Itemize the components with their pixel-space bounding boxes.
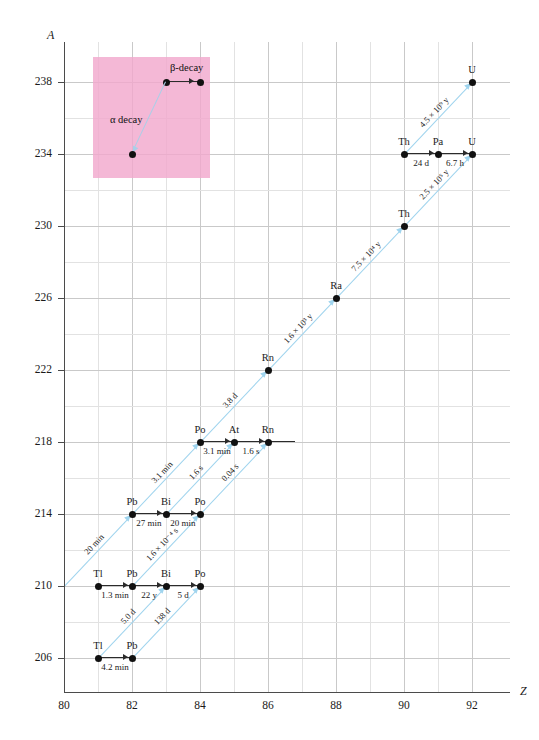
y-axis-tick (58, 154, 64, 155)
nuclide-node-po-218[interactable] (197, 439, 204, 446)
alpha-half-life-label: 2.5 × 10⁵ y (418, 167, 451, 201)
nuclide-node-th-230[interactable] (401, 223, 408, 230)
nuclide-label-bi: Bi (161, 568, 171, 579)
x-axis-tick-label: 86 (251, 699, 285, 711)
beta-half-life-label: 1.3 min (101, 590, 129, 600)
nuclide-label-tl: Tl (93, 568, 102, 579)
arrow-head-icon (157, 510, 162, 516)
y-axis-tick (58, 298, 64, 299)
alpha-half-life-label: 7.5 × 10⁴ y (350, 239, 383, 273)
nuclide-node-bi-210[interactable] (163, 583, 170, 590)
y-axis-tick (58, 226, 64, 227)
nuclide-node-pb-214[interactable] (129, 511, 136, 518)
nuclide-node-tl-206[interactable] (95, 655, 102, 662)
y-axis-title: A (47, 28, 54, 43)
nuclide-label-bi: Bi (161, 496, 171, 507)
y-axis-tick-label: 234 (18, 147, 52, 159)
nuclide-label-at: At (229, 424, 240, 435)
nuclide-label-po: Po (194, 424, 205, 435)
nuclide-node-bi-214[interactable] (163, 511, 170, 518)
gridline-horizontal (64, 370, 510, 371)
gridline-vertical (302, 42, 303, 692)
gridline-horizontal (64, 262, 510, 263)
beta-decay-legend-label: β-decay (170, 62, 203, 73)
alpha-half-life-label: 0.04 s (220, 461, 241, 483)
y-axis-tick (58, 442, 64, 443)
decay-line-segment (268, 441, 295, 442)
y-axis-tick (58, 82, 64, 83)
y-axis-line (64, 42, 65, 693)
nuclide-label-pb: Pb (126, 640, 137, 651)
arrow-head-icon (191, 510, 196, 516)
nuclide-node-th-234[interactable] (401, 151, 408, 158)
gridline-horizontal (64, 550, 510, 551)
gridline-vertical (370, 42, 371, 692)
y-axis-tick-label: 210 (18, 579, 52, 591)
nuclide-label-th: Th (398, 136, 410, 147)
arrow-head-icon (123, 654, 128, 660)
nuclide-node-ra-226[interactable] (333, 295, 340, 302)
nuclide-label-po: Po (194, 496, 205, 507)
nuclide-label-th: Th (398, 208, 410, 219)
nuclide-label-rn: Rn (262, 424, 274, 435)
nuclide-label-pb: Pb (126, 568, 137, 579)
gridline-horizontal (64, 298, 510, 299)
alpha-half-life-label: 1.6 × 10³ y (282, 311, 315, 345)
x-axis-tick-label: 88 (319, 699, 353, 711)
beta-half-life-label: 3.1 min (203, 446, 231, 456)
beta-half-life-label: 24 d (413, 158, 429, 168)
nuclide-node-u-234[interactable] (469, 151, 476, 158)
y-axis-tick-label: 230 (18, 219, 52, 231)
arrow-head-icon (191, 582, 196, 588)
arrow-head-icon (123, 582, 128, 588)
y-axis-tick-label: 238 (18, 75, 52, 87)
arrow-head-icon (225, 438, 230, 444)
nuclide-label-po: Po (194, 568, 205, 579)
nuclide-label-ra: Ra (330, 280, 342, 291)
y-axis-tick-label: 226 (18, 291, 52, 303)
gridline-vertical (336, 42, 337, 692)
alpha-decay-legend-label: α decay (110, 114, 143, 125)
y-axis-tick-label: 206 (18, 651, 52, 663)
alpha-half-life-label: 1.6 × 10⁻⁴ s (144, 525, 180, 562)
beta-half-life-label: 4.2 min (101, 662, 129, 672)
nuclide-node-pa-234[interactable] (435, 151, 442, 158)
beta-half-life-label: 22 y (141, 590, 157, 600)
nuclide-label-pa: Pa (433, 136, 444, 147)
nuclide-node-u-238[interactable] (469, 79, 476, 86)
legend-node-beta-product (197, 79, 204, 86)
nuclide-node-pb-206[interactable] (129, 655, 136, 662)
y-axis-tick-label: 222 (18, 363, 52, 375)
y-axis-tick-label: 214 (18, 507, 52, 519)
beta-half-life-label: 20 min (170, 518, 195, 528)
nuclide-node-at-218[interactable] (231, 439, 238, 446)
arrow-head-icon (189, 78, 194, 84)
x-axis-tick-label: 80 (47, 699, 81, 711)
arrow-head-icon (259, 438, 264, 444)
x-axis-line (64, 692, 510, 693)
y-axis-tick (58, 586, 64, 587)
legend-node-alpha-product (129, 151, 136, 158)
nuclide-label-rn: Rn (262, 352, 274, 363)
x-axis-tick-label: 82 (115, 699, 149, 711)
gridline-horizontal (64, 226, 510, 227)
nuclide-label-pb: Pb (126, 496, 137, 507)
nuclide-node-rn-222[interactable] (265, 367, 272, 374)
alpha-half-life-label: 138 d (152, 605, 173, 626)
nuclide-node-po-214[interactable] (197, 511, 204, 518)
nuclide-label-tl: Tl (93, 640, 102, 651)
legend-beta-arrow (166, 81, 200, 82)
x-axis-tick-label: 90 (387, 699, 421, 711)
y-axis-tick (58, 514, 64, 515)
nuclide-node-pb-210[interactable] (129, 583, 136, 590)
nuclide-node-po-210[interactable] (197, 583, 204, 590)
beta-half-life-label: 27 min (136, 518, 161, 528)
arrow-head-icon (429, 150, 434, 156)
y-axis-tick-label: 218 (18, 435, 52, 447)
beta-half-life-label: 6.7 h (446, 158, 464, 168)
beta-half-life-label: 1.6 s (242, 446, 259, 456)
x-axis-title: Z (520, 684, 527, 699)
nuclide-node-rn-218[interactable] (265, 439, 272, 446)
nuclide-node-tl-210[interactable] (95, 583, 102, 590)
gridline-vertical (234, 42, 235, 692)
